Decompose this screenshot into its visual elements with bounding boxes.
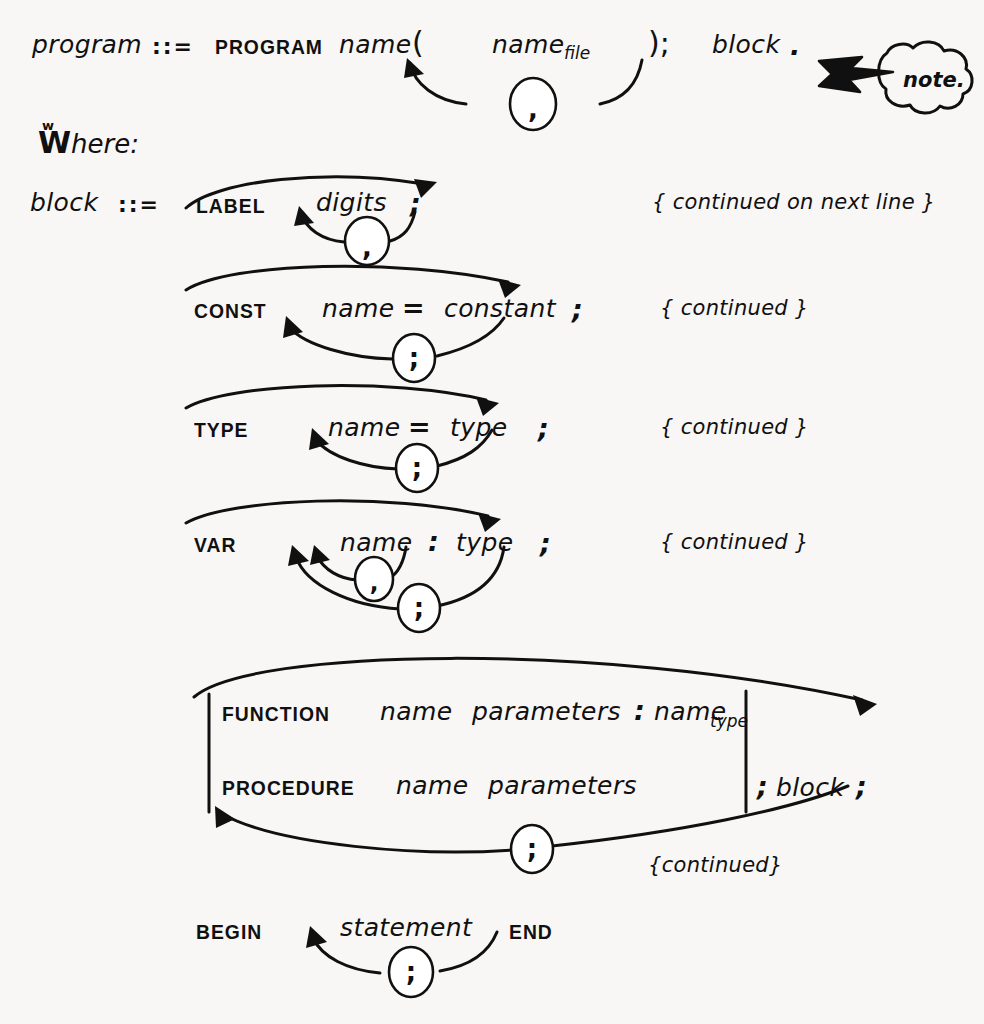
rparen-semicolon-program: ); xyxy=(648,28,670,58)
semicolon-before-block: ; xyxy=(757,773,768,800)
loop-token-comma-program: , xyxy=(523,96,543,122)
terminal-type-keyword: TYPE xyxy=(194,419,249,440)
terminal-begin-keyword: BEGIN xyxy=(196,921,262,942)
nonterminal-name-procedure: name xyxy=(396,773,469,798)
nonterminal-type-var: type xyxy=(456,530,513,555)
nonterminal-name-type: name xyxy=(328,415,401,440)
nonterminal-block-subprogram: block xyxy=(776,775,844,800)
nonterminal-name-file: name xyxy=(492,32,565,57)
terminal-end-keyword: END xyxy=(509,921,553,942)
semicolon-var-row: ; xyxy=(540,530,551,557)
where-rest: here: xyxy=(71,129,139,159)
bypass-arc-type xyxy=(186,386,499,416)
loop-token-semicolon-type: ; xyxy=(407,455,427,481)
diagram-ink-layer: .ln { fill:none; stroke:#111010; stroke-… xyxy=(0,0,984,1024)
terminal-program-keyword: PROGRAM xyxy=(215,36,323,57)
equals-const: = xyxy=(402,294,425,321)
semicolon-after-block: ; xyxy=(856,773,867,800)
period-program: . xyxy=(790,32,800,59)
nonterminal-digits: digits xyxy=(316,190,387,215)
production-lhs-block: block xyxy=(30,190,98,215)
def-symbol-program: ::= xyxy=(152,36,194,58)
lparen-program: ( xyxy=(412,28,424,58)
terminal-label-keyword: LABEL xyxy=(196,195,265,216)
nonterminal-constant: constant xyxy=(444,296,556,321)
where-decoration-w: w xyxy=(42,118,54,133)
syntax-diagram-page: .ln { fill:none; stroke:#111010; stroke-… xyxy=(0,0,984,1024)
terminal-var-keyword: VAR xyxy=(194,534,236,555)
subscript-file: file xyxy=(564,45,590,62)
nonterminal-name-var: name xyxy=(340,530,413,555)
nonterminal-statement: statement xyxy=(340,915,472,940)
comment-continued-type: { continued } xyxy=(660,417,809,438)
semicolon-label-row: ; xyxy=(410,190,421,217)
nonterminal-parameters-function: parameters xyxy=(472,699,621,724)
nonterminal-parameters-procedure: parameters xyxy=(488,773,637,798)
loop-token-comma-label: , xyxy=(357,234,377,260)
loop-token-semicolon-var: ; xyxy=(409,595,429,621)
semicolon-const-row: ; xyxy=(572,296,583,323)
semicolon-type-row: ; xyxy=(538,415,549,442)
terminal-const-keyword: CONST xyxy=(194,300,267,321)
subscript-type: type xyxy=(710,713,748,730)
loop-const-semicolon xyxy=(283,316,504,382)
nonterminal-name-1: name xyxy=(339,32,412,57)
production-lhs-program: program xyxy=(32,32,142,57)
loop-token-semicolon-statement: ; xyxy=(401,959,421,985)
terminal-procedure-keyword: PROCEDURE xyxy=(222,777,355,798)
loop-var-semicolon xyxy=(288,545,504,632)
note-callout-label: note. xyxy=(903,68,965,92)
nonterminal-block-1: block xyxy=(712,32,780,57)
nonterminal-name-function: name xyxy=(380,699,453,724)
def-symbol-block: ::= xyxy=(118,194,160,216)
loop-token-semicolon-const: ; xyxy=(404,345,424,371)
comment-continued-next-line: { continued on next line } xyxy=(652,192,936,213)
colon-function-result: : xyxy=(634,697,645,724)
colon-var: : xyxy=(428,528,439,555)
loop-token-comma-var: , xyxy=(365,572,383,595)
loop-token-semicolon-subprograms: ; xyxy=(522,836,542,862)
comment-continued-const: { continued } xyxy=(660,298,809,319)
nonterminal-name-const: name xyxy=(322,296,395,321)
nonterminal-type: type xyxy=(450,415,507,440)
terminal-function-keyword: FUNCTION xyxy=(222,703,330,724)
comment-continued-var: { continued } xyxy=(660,532,809,553)
comment-continued-subprograms: {continued} xyxy=(648,855,783,876)
equals-type: = xyxy=(408,413,431,440)
